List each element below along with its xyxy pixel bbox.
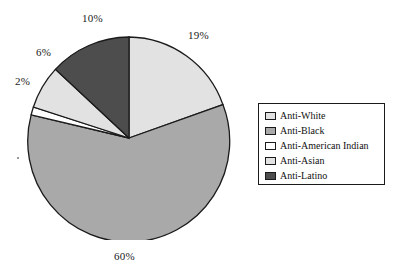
legend-item-anti-black[interactable]: Anti-Black <box>265 124 384 138</box>
legend-item-anti-latino[interactable]: Anti-Latino <box>265 169 384 183</box>
pie-svg <box>27 36 231 240</box>
legend-swatch-anti-asian <box>265 157 276 165</box>
legend-swatch-anti-white <box>265 112 276 120</box>
pie-label-anti-asian-percent: 6% <box>36 46 51 58</box>
chart-legend: Anti-White Anti-Black Anti-American Indi… <box>258 103 385 185</box>
legend-label-anti-white: Anti-White <box>280 111 326 121</box>
legend-label-anti-asian: Anti-Asian <box>280 156 324 166</box>
scan-artifact-speck <box>17 157 19 159</box>
legend-swatch-anti-black <box>265 127 276 135</box>
pie-chart-figure: 19% 10% 6% 2% 60% Anti-White Anti-Black … <box>0 0 402 275</box>
legend-label-anti-american-indian: Anti-American Indian <box>280 141 369 151</box>
legend-item-anti-asian[interactable]: Anti-Asian <box>265 154 384 168</box>
legend-swatch-anti-american-indian <box>265 142 276 150</box>
legend-item-anti-american-indian[interactable]: Anti-American Indian <box>265 139 384 153</box>
pie-label-anti-white-percent: 19% <box>188 29 209 41</box>
legend-label-anti-latino: Anti-Latino <box>280 171 327 181</box>
legend-swatch-anti-latino <box>265 172 276 180</box>
pie-label-anti-latino-percent: 10% <box>82 12 103 24</box>
legend-label-anti-black: Anti-Black <box>280 126 324 136</box>
legend-item-anti-white[interactable]: Anti-White <box>265 109 384 123</box>
pie-label-anti-american-indian-percent: 2% <box>15 75 30 87</box>
pie-chart-graphic <box>27 36 231 240</box>
pie-label-anti-black-percent: 60% <box>114 250 135 262</box>
